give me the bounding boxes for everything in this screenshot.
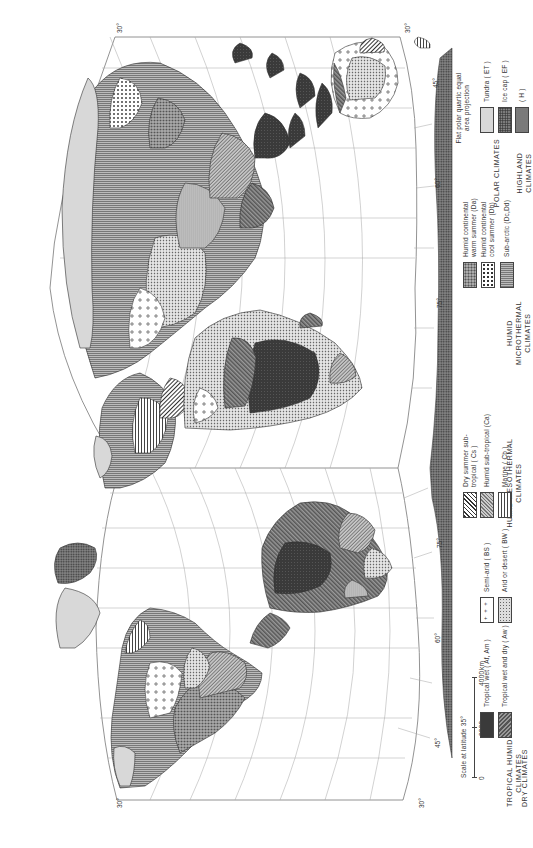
swatch-semi-arid bbox=[480, 597, 494, 623]
swatch-highland bbox=[515, 107, 529, 133]
legend-item-sub-arctic: Sub-arctic (Dc,Dd) bbox=[500, 200, 514, 288]
swatch-dry-summer-subtropical bbox=[463, 492, 477, 518]
swatch-tropical-wet bbox=[480, 712, 494, 738]
legend-item-humid-subtropical: Humid sub-tropical (Ca) bbox=[480, 414, 494, 518]
legend-group-dry: DRY CLIMATES bbox=[520, 728, 529, 828]
swatch-marine bbox=[498, 492, 512, 518]
legend-item-semi-arid: Semi-arid ( BS ) bbox=[480, 543, 494, 623]
legend-item-highland: ( H ) bbox=[515, 88, 529, 133]
legend-group-highland: HIGHLAND CLIMATES bbox=[515, 138, 533, 208]
legend-item-ice-cap: Ice cap ( EF ) bbox=[498, 60, 512, 133]
scale-tick-0: 0 bbox=[478, 776, 485, 780]
swatch-arid-desert bbox=[498, 597, 512, 623]
projection-note: Flat polar quartic equal area projection bbox=[455, 68, 471, 148]
legend-item-tropical-wet: Tropical wet ( Af, Am ) bbox=[480, 639, 494, 738]
swatch-tundra bbox=[480, 107, 494, 133]
legend-item-marine: Marine ( Cb ) bbox=[498, 446, 512, 518]
legend-group-polar: POLAR CLIMATES bbox=[492, 138, 501, 208]
legend-item-tropical-wet-dry: Tropical wet and dry ( Aw ) bbox=[498, 625, 512, 738]
swatch-humid-continental-warm bbox=[463, 262, 477, 288]
legend-item-humid-continental-warm: Humid continental warm summer (Da) bbox=[462, 187, 478, 288]
swatch-humid-continental-cool bbox=[481, 262, 495, 288]
legend-item-tundra: Tundra ( ET ) bbox=[480, 61, 494, 133]
swatch-sub-arctic bbox=[500, 262, 514, 288]
legend-item-arid-desert: Arid or desert ( BW ) bbox=[498, 529, 512, 623]
swatch-ice-cap bbox=[498, 107, 512, 133]
swatch-tropical-wet-dry bbox=[498, 712, 512, 738]
scale-title: Scale at latitude 35° bbox=[460, 716, 467, 778]
swatch-humid-subtropical bbox=[480, 492, 494, 518]
legend-group-humid-microthermal: HUMID MICROTHERMAL CLIMATES bbox=[505, 288, 532, 378]
legend-item-dry-summer-subtropical: Dry summer sub-tropical ( Cs ) bbox=[462, 427, 478, 518]
